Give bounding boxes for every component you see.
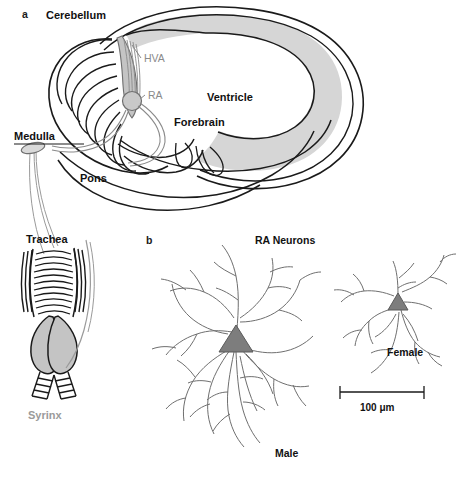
label-cerebellum: Cerebellum <box>46 9 106 21</box>
label-syrinx: Syrinx <box>28 409 63 421</box>
scale-bar-label: 100 μm <box>360 402 395 413</box>
ra-neurons-title: RA Neurons <box>255 234 315 246</box>
label-ventricle: Ventricle <box>207 91 253 103</box>
label-forebrain: Forebrain <box>174 116 225 128</box>
label-female: Female <box>387 346 423 358</box>
label-ra: RA <box>148 89 163 101</box>
figure-background <box>0 0 471 485</box>
label-trachea: Trachea <box>26 233 68 245</box>
panel-b-letter: b <box>146 234 152 246</box>
label-male: Male <box>275 447 299 459</box>
ra-nucleus <box>123 92 142 111</box>
label-pons: Pons <box>80 172 107 184</box>
label-medulla: Medulla <box>14 130 56 142</box>
label-hva: HVA <box>144 52 165 64</box>
figure-canvas: a Cerebellum HVA RA Ventricle Forebrain … <box>0 0 471 485</box>
panel-a-letter: a <box>22 8 28 20</box>
